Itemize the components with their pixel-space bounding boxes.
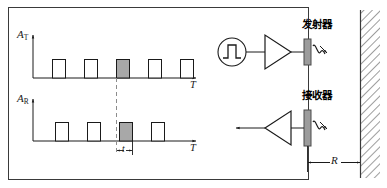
receive-plot: [33, 99, 196, 141]
transmit-x-axis-label: T: [190, 80, 196, 91]
transmit-amplitude-subscript: T: [24, 33, 29, 42]
range-label: R: [331, 155, 338, 166]
receive-chain: [236, 110, 327, 146]
reflecting-wall: [361, 10, 381, 178]
transmit-amplitude-symbol: A: [17, 28, 24, 40]
transmitter-label: 发射器: [302, 19, 332, 30]
receive-transducer-icon: [304, 110, 311, 146]
transmit-pulse-1: [53, 60, 66, 79]
transmit-y-axis-label: AT: [17, 29, 28, 42]
receive-x-axis-label: T: [190, 143, 196, 154]
transmit-pulse-4: [149, 60, 162, 79]
figure-container: AT T AR T t 发射器 接收器 R: [0, 0, 387, 188]
receive-y-axis-label: AR: [17, 93, 29, 106]
figure-border: [9, 8, 309, 180]
transmit-amplifier-icon: [265, 35, 291, 69]
receive-pulse-1: [56, 123, 69, 142]
transmit-pulse-2: [85, 60, 98, 79]
transmit-pulse-5: [181, 60, 194, 79]
transmit-chain: [218, 35, 327, 69]
receive-pulse-4: [152, 123, 165, 142]
receive-pulse-3-shaded: [120, 123, 133, 142]
receive-amplifier-icon: [265, 111, 291, 145]
delay-interval-label: t: [122, 145, 125, 155]
receiver-label: 接收器: [302, 90, 332, 101]
transmit-pulse-3-shaded: [117, 60, 130, 79]
wall-hatching: [361, 10, 380, 178]
receive-pulse-2: [88, 123, 101, 142]
transmit-plot: [33, 35, 196, 78]
receive-amplitude-subscript: R: [24, 97, 29, 106]
pulse-generator-icon: [218, 38, 246, 66]
transmit-transducer-icon: [304, 39, 311, 65]
receive-amplitude-symbol: A: [17, 92, 24, 104]
